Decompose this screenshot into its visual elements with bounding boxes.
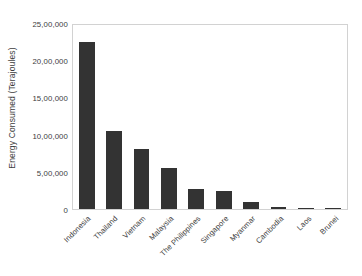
x-label-slot: Thailand <box>100 211 128 275</box>
y-tick-label: 20,00,000 <box>18 57 68 66</box>
bar[interactable] <box>216 191 232 209</box>
bars-layer <box>73 25 347 209</box>
bar-slot <box>128 25 155 209</box>
bar[interactable] <box>298 208 314 209</box>
y-axis-tick-labels: 05,00,00010,00,00015,00,00020,00,00025,0… <box>18 24 68 210</box>
bar-chart-figure: Energy Consumed (Terajoules) 05,00,00010… <box>0 0 362 276</box>
bar[interactable] <box>134 149 150 209</box>
x-tick-label: Brunei <box>318 214 340 236</box>
bar-slot <box>155 25 182 209</box>
plot-area <box>72 24 348 210</box>
bar[interactable] <box>161 168 177 209</box>
y-tick-label: 5,00,000 <box>18 168 68 177</box>
y-tick-label: 15,00,000 <box>18 94 68 103</box>
bar[interactable] <box>325 208 341 209</box>
bar-slot <box>100 25 127 209</box>
bar[interactable] <box>106 131 122 209</box>
bar-slot <box>210 25 237 209</box>
bar[interactable] <box>243 202 259 209</box>
bar-slot <box>183 25 210 209</box>
x-label-slot: Brunei <box>320 211 348 275</box>
x-label-slot: Indonesia <box>72 211 100 275</box>
bar-slot <box>320 25 347 209</box>
y-tick-label: 10,00,000 <box>18 131 68 140</box>
bar-slot <box>265 25 292 209</box>
x-axis-tick-labels: IndonesiaThailandVietnamMalaysiaThe Phil… <box>72 211 348 275</box>
x-label-slot: Cambodia <box>265 211 293 275</box>
x-tick-label: Laos <box>295 214 313 232</box>
y-axis-title-text: Energy Consumed (Terajoules) <box>7 47 17 168</box>
x-tick-label: Indonesia <box>62 214 92 244</box>
x-label-slot: Laos <box>293 211 321 275</box>
y-tick-label: 0 <box>18 206 68 215</box>
bar-slot <box>237 25 264 209</box>
bar[interactable] <box>271 207 287 209</box>
bar-slot <box>292 25 319 209</box>
y-tick-label: 25,00,000 <box>18 20 68 29</box>
bar[interactable] <box>79 42 95 209</box>
bar-slot <box>73 25 100 209</box>
x-label-slot: Vietnam <box>127 211 155 275</box>
bar[interactable] <box>188 189 204 209</box>
